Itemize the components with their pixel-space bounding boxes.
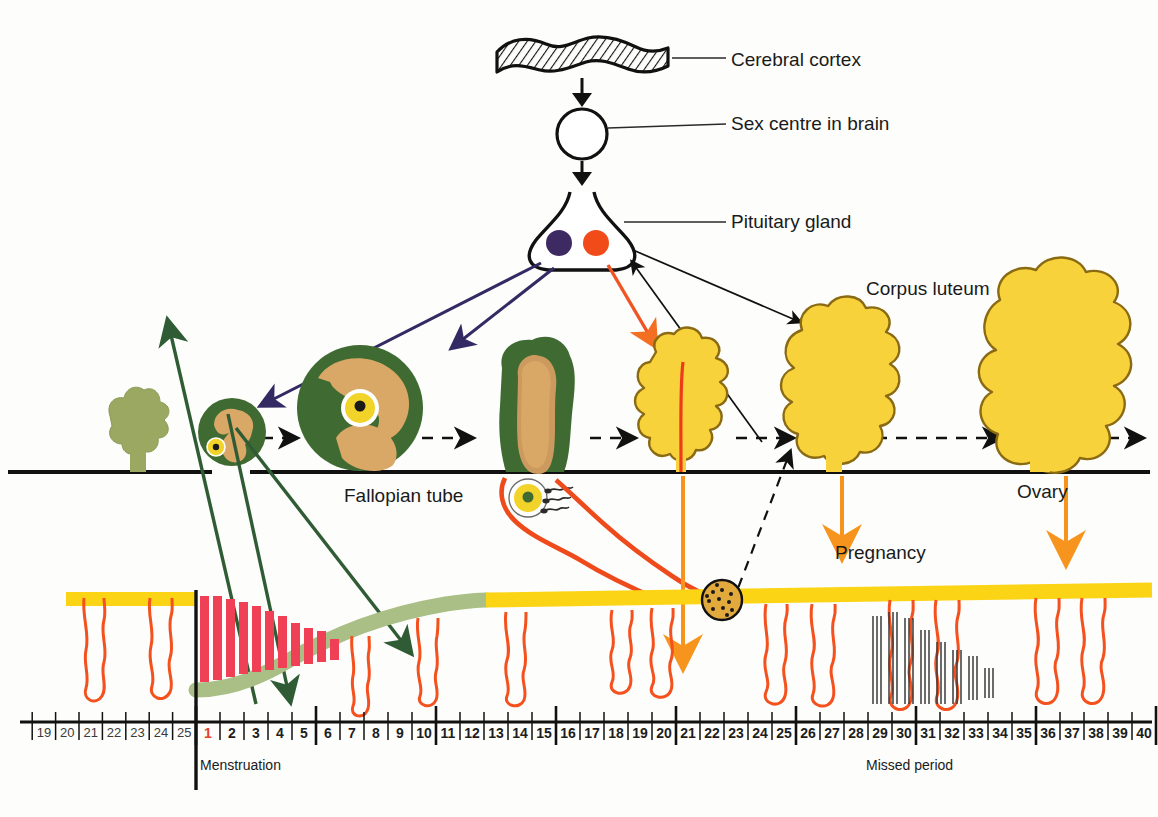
endometrium-luteal-band (486, 590, 1152, 600)
label-cerebral-cortex: Cerebral cortex (731, 49, 861, 71)
day-number: 32 (940, 725, 964, 741)
corpus-luteum-pregnancy (979, 257, 1131, 472)
fallopian-tube-path-right (556, 480, 726, 602)
pituitary-gland-shape (529, 192, 635, 270)
day-number: 12 (460, 725, 484, 741)
day-number: 19 (32, 725, 56, 740)
day-number: 2 (220, 725, 244, 741)
follicle-primordial (109, 387, 169, 472)
day-number: 21 (676, 725, 700, 741)
day-number: 24 (149, 725, 173, 740)
day-number: 8 (364, 725, 388, 741)
pituitary-fsh-granule (546, 230, 572, 256)
day-number: 25 (172, 725, 196, 740)
day-number: 25 (772, 725, 796, 741)
day-number: 4 (268, 725, 292, 741)
day-number: 23 (724, 725, 748, 741)
decidual-reaction-hatching (872, 612, 994, 704)
corpus-luteum-early (635, 328, 728, 472)
day-number: 11 (436, 725, 460, 741)
day-number: 6 (316, 725, 340, 741)
cerebral-cortex-shape (497, 37, 668, 72)
day-number: 38 (1084, 725, 1108, 741)
diagram-canvas: Cerebral cortex Sex centre in brain Pitu… (0, 0, 1158, 817)
day-number: 16 (556, 725, 580, 741)
day-number: 13 (484, 725, 508, 741)
day-number: 29 (868, 725, 892, 741)
day-number: 23 (126, 725, 150, 740)
sexcentre-leader-line (608, 124, 726, 128)
day-number: 10 (412, 725, 436, 741)
corpus-luteum-mature (781, 296, 899, 472)
day-number: 9 (388, 725, 412, 741)
day-number: 15 (532, 725, 556, 741)
day-number: 34 (988, 725, 1012, 741)
day-number: 21 (79, 725, 103, 740)
day-number: 7 (340, 725, 364, 741)
day-number: 1 (196, 725, 220, 741)
day-number: 5 (292, 725, 316, 741)
day-number: 31 (916, 725, 940, 741)
day-number: 22 (102, 725, 126, 740)
day-number: 33 (964, 725, 988, 741)
label-fallopian-tube: Fallopian tube (344, 485, 463, 507)
day-number: 39 (1108, 725, 1132, 741)
day-number: 26 (796, 725, 820, 741)
day-number: 28 (844, 725, 868, 741)
day-number: 20 (652, 725, 676, 741)
day-number: 17 (580, 725, 604, 741)
arrowhead-down-2 (572, 172, 592, 186)
label-corpus-luteum: Corpus luteum (866, 278, 990, 300)
arrowhead-down-1 (572, 93, 592, 107)
label-pregnancy: Pregnancy (835, 542, 926, 564)
day-number: 27 (820, 725, 844, 741)
label-ovary: Ovary (1017, 481, 1068, 503)
endometrium-previous-cycle (66, 592, 196, 606)
label-menstruation: Menstruation (200, 757, 281, 773)
label-sex-centre: Sex centre in brain (731, 113, 889, 135)
lh-arrow-to-corpus-luteum (608, 265, 655, 345)
day-number: 40 (1132, 725, 1156, 741)
day-number: 22 (700, 725, 724, 741)
day-number: 24 (748, 725, 772, 741)
day-number: 30 (892, 725, 916, 741)
day-number: 35 (1012, 725, 1036, 741)
fsh-arrow-to-graafian-follicle (453, 268, 554, 347)
follicle-graafian (297, 345, 423, 471)
day-number: 3 (244, 725, 268, 741)
diagram-graphics (0, 0, 1158, 817)
day-number: 20 (55, 725, 79, 740)
pituitary-arrow-to-corpus-luteum (633, 250, 800, 322)
day-number: 37 (1060, 725, 1084, 741)
day-number: 19 (628, 725, 652, 741)
day-number: 36 (1036, 725, 1060, 741)
implanted-ovum (702, 580, 742, 620)
day-number: 18 (604, 725, 628, 741)
sex-centre-circle (557, 109, 607, 159)
implantation-dashed-arrow (732, 452, 790, 604)
label-pituitary-gland: Pituitary gland (731, 211, 851, 233)
label-missed-period: Missed period (866, 757, 953, 773)
day-number: 14 (508, 725, 532, 741)
pituitary-lh-granule (583, 230, 609, 256)
